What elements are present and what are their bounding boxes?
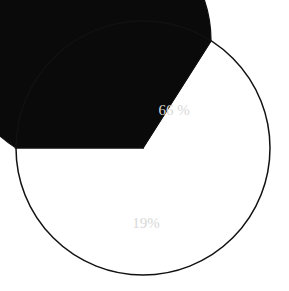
slice-label-grey: 19% <box>132 215 160 231</box>
pie-slices <box>0 0 211 148</box>
pie-chart: 66 % 19% <box>0 0 289 291</box>
slice-label-black: 66 % <box>158 102 189 118</box>
pie-slice <box>0 0 211 148</box>
